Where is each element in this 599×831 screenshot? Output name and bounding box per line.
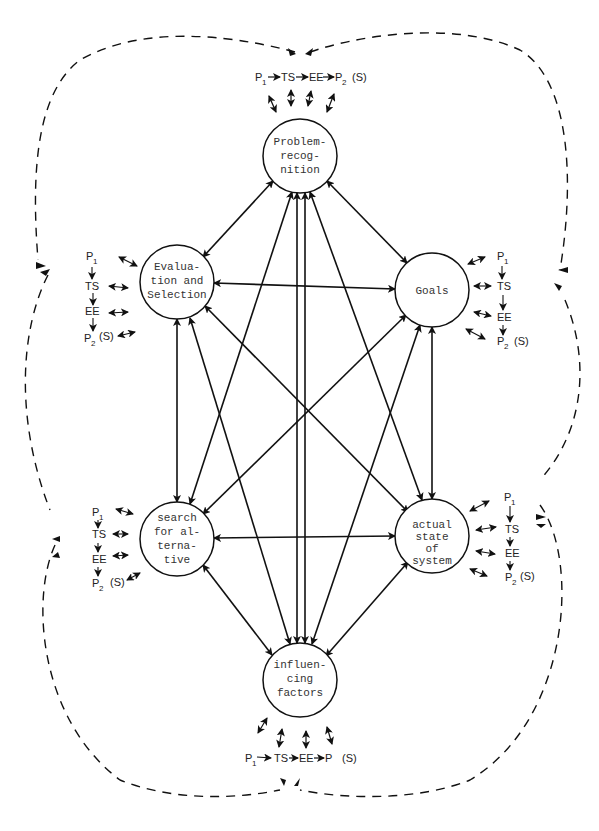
svg-text:TS: TS: [505, 523, 519, 535]
svg-text:(S): (S): [99, 330, 114, 342]
svg-text:2: 2: [342, 78, 347, 87]
node-influencing-factors: influen- cing factors: [263, 643, 337, 717]
svg-text:P: P: [325, 752, 332, 764]
svg-text:1: 1: [262, 78, 267, 87]
svg-text:2: 2: [99, 584, 104, 593]
node-problem-recognition: Problem- recog- nition: [263, 119, 337, 193]
svg-text:state: state: [415, 531, 448, 543]
subprocess-top: P 1 TS EE P 2 (S): [255, 71, 367, 112]
svg-text:TS: TS: [497, 280, 511, 292]
node-connections: [177, 181, 432, 656]
svg-text:factors: factors: [277, 687, 323, 699]
svg-text:(S): (S): [352, 71, 367, 83]
svg-text:influen-: influen-: [274, 659, 327, 671]
svg-text:EE: EE: [497, 311, 512, 323]
node-goals: Goals: [395, 253, 469, 327]
decision-process-diagram: Problem- recog- nition Evalua- tion and …: [0, 0, 599, 831]
svg-text:actual: actual: [412, 519, 452, 531]
svg-text:(S): (S): [520, 570, 535, 582]
svg-text:(S): (S): [342, 752, 357, 764]
svg-text:EE: EE: [309, 71, 324, 83]
svg-text:of: of: [425, 543, 438, 555]
svg-text:Evalua-: Evalua-: [154, 261, 200, 273]
svg-text:Problem-: Problem-: [274, 136, 327, 148]
svg-text:Goals: Goals: [415, 285, 448, 297]
svg-text:cing: cing: [287, 673, 313, 685]
svg-text:EE: EE: [505, 547, 520, 559]
svg-text:TS: TS: [274, 752, 288, 764]
svg-text:1: 1: [511, 498, 516, 507]
node-evaluation-and-selection: Evalua- tion and Selection: [140, 245, 214, 319]
svg-text:search: search: [157, 512, 197, 524]
subprocess-search: P 1 TS EE P 2 (S): [92, 506, 140, 593]
svg-text:TS: TS: [92, 528, 106, 540]
svg-text:EE: EE: [85, 305, 100, 317]
svg-text:1: 1: [504, 257, 509, 266]
svg-text:for al-: for al-: [154, 526, 200, 538]
svg-text:2: 2: [504, 342, 509, 351]
svg-text:(S): (S): [110, 576, 125, 588]
svg-text:1: 1: [93, 257, 98, 266]
svg-text:tion and: tion and: [151, 275, 204, 287]
svg-text:TS: TS: [85, 280, 99, 292]
svg-text:system: system: [412, 555, 452, 567]
svg-text:nition: nition: [280, 164, 320, 176]
svg-text:2: 2: [512, 578, 517, 587]
node-actual-state-of-system: actual state of system: [395, 499, 469, 573]
node-search-for-alternative: search for al- terna- tive: [140, 502, 214, 576]
svg-text:1: 1: [252, 759, 257, 768]
svg-text:1: 1: [99, 513, 104, 522]
svg-text:(S): (S): [514, 335, 529, 347]
subprocess-actual-state: P 1 TS EE P 2 (S): [470, 491, 535, 587]
svg-text:EE: EE: [299, 752, 314, 764]
svg-text:2: 2: [91, 339, 96, 348]
svg-text:EE: EE: [92, 553, 107, 565]
svg-text:TS: TS: [281, 71, 295, 83]
svg-text:Selection: Selection: [147, 289, 206, 301]
subprocess-bottom: P 1 TS EE P (S): [245, 718, 357, 768]
subprocess-evaluation: P 1 TS EE P 2 (S): [84, 250, 137, 348]
svg-text:tive: tive: [164, 554, 190, 566]
svg-text:terna-: terna-: [157, 540, 197, 552]
svg-text:recog-: recog-: [280, 150, 320, 162]
subprocess-goals: P 1 TS EE P 2 (S): [466, 250, 529, 351]
